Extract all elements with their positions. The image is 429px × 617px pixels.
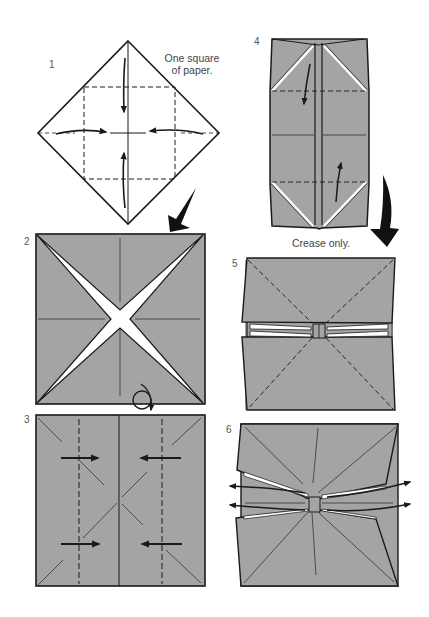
step-4-rectangle [270,39,369,229]
origami-diagram: 1 2 3 4 5 6 One square of paper. Crease … [0,0,429,617]
step-3-square [36,415,205,586]
turn-arrow-icon [168,188,196,232]
curved-arrow-icon [370,175,399,247]
diagram-drawing [0,0,429,617]
step-5-square [242,258,395,410]
step-6-square [230,424,410,586]
step-2-square [36,234,205,410]
